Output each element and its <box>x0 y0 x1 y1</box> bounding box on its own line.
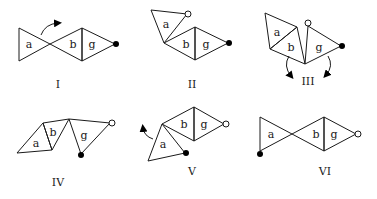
filled-dot <box>226 40 232 46</box>
panel-label: IV <box>52 176 65 189</box>
filled-dot <box>78 152 84 158</box>
panel-label: V <box>187 165 197 178</box>
triangle-g <box>324 117 356 151</box>
panel-i: a b g I <box>19 23 119 91</box>
label-a: a <box>274 26 281 39</box>
triangle-g <box>195 27 228 60</box>
panel-label: VI <box>318 165 331 178</box>
label-b: b <box>287 41 294 54</box>
label-a: a <box>26 38 33 51</box>
panel-label: II <box>188 78 197 91</box>
panel-label: I <box>56 78 60 91</box>
filled-dot <box>113 41 119 47</box>
triangle-g <box>82 28 115 61</box>
label-g: g <box>88 38 95 51</box>
panel-v: a b g V <box>143 107 229 178</box>
label-g: g <box>200 118 207 131</box>
label-a: a <box>160 138 167 151</box>
label-g: g <box>315 41 322 54</box>
triangle-g <box>69 119 110 154</box>
label-g: g <box>80 129 87 142</box>
label-b: b <box>49 126 56 139</box>
filled-dot <box>257 151 263 157</box>
open-dot <box>305 20 311 26</box>
panel-iii: a b g III <box>265 13 345 88</box>
label-b: b <box>69 38 76 51</box>
triangle-a <box>148 124 185 161</box>
label-g: g <box>330 128 337 141</box>
filled-dot <box>183 150 189 156</box>
rotation-arrow-icon <box>143 128 153 139</box>
panel-iv: a b g IV <box>17 119 115 189</box>
triangle-a <box>260 117 292 151</box>
triangle-g <box>305 26 341 64</box>
open-dot <box>355 131 361 137</box>
panel-vi: a b g VI <box>257 117 361 178</box>
filled-dot <box>339 43 345 49</box>
rotation-arrow-icon <box>41 23 58 35</box>
panel-label: III <box>301 75 314 88</box>
diagram-canvas: a b g I a b g II a b g III a b <box>0 0 377 199</box>
triangle-g <box>194 107 224 141</box>
label-b: b <box>312 128 319 141</box>
rotation-arrow-icon <box>286 56 291 76</box>
triangle-b <box>164 27 195 60</box>
label-g: g <box>202 38 209 51</box>
triangle-b <box>50 28 82 61</box>
open-dot <box>223 121 229 127</box>
open-dot <box>109 120 115 126</box>
label-a: a <box>268 128 275 141</box>
rotation-arrow-icon <box>326 56 331 75</box>
open-dot <box>185 11 191 17</box>
panel-ii: a b g II <box>151 10 232 91</box>
label-b: b <box>180 118 187 131</box>
label-a: a <box>33 137 40 150</box>
triangle-b <box>162 107 194 141</box>
label-a: a <box>163 18 170 31</box>
label-b: b <box>182 38 189 51</box>
triangle-a <box>19 28 50 61</box>
